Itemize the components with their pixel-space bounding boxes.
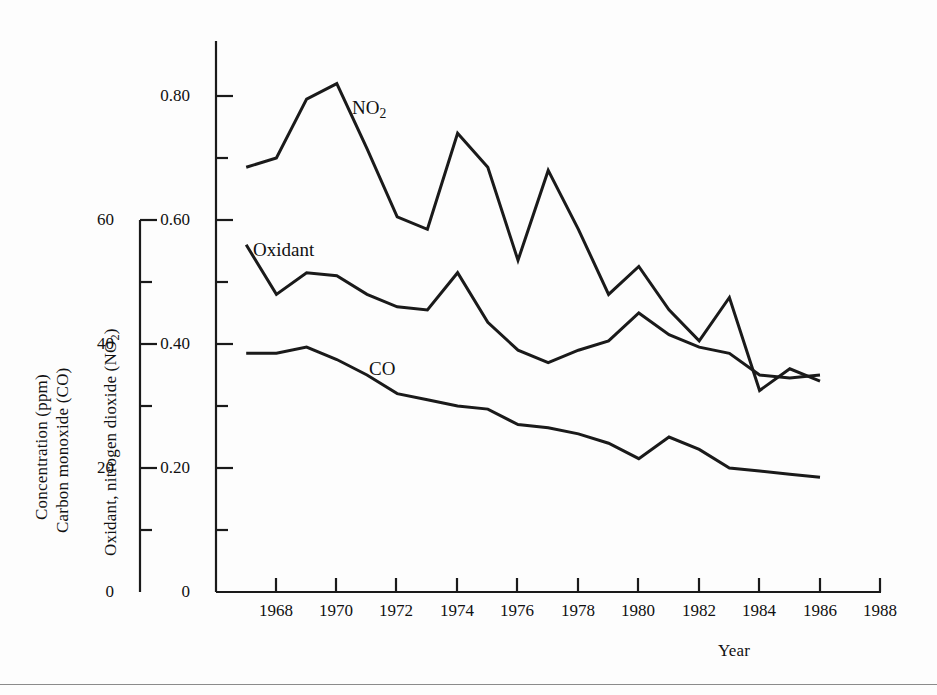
series-label-no2-text: NO: [352, 97, 379, 118]
x-tick-1988: 1988: [850, 601, 910, 621]
y-axis-co-ticks: [140, 220, 157, 530]
x-tick-1976: 1976: [487, 601, 547, 621]
series-label-no2-subscript: 2: [379, 106, 386, 121]
x-tick-1970: 1970: [306, 601, 366, 621]
chart-figure: 0.80 0.60 0.40 0.20 0 60 40 20 0 1968 19…: [0, 0, 937, 695]
y-axis-title-no2-subscript: 2: [108, 334, 122, 340]
footer-divider: [0, 684, 937, 685]
series-label-co: CO: [369, 358, 395, 380]
x-tick-1982: 1982: [669, 601, 729, 621]
x-tick-1980: 1980: [608, 601, 668, 621]
x-tick-1974: 1974: [427, 601, 487, 621]
y-axis-no2-ticks: [216, 96, 233, 530]
y-tick-no2-0.80: 0.80: [128, 86, 190, 106]
x-tick-1972: 1972: [366, 601, 426, 621]
y-axis-title-co-line1: Concentration (ppm): [32, 374, 52, 520]
y-tick-no2-0: 0: [128, 582, 190, 602]
x-axis-title: Year: [718, 641, 750, 661]
y-tick-co-0: 0: [52, 582, 114, 602]
y-axis-title-co-line2: Carbon monoxide (CO): [53, 368, 73, 533]
x-tick-1984: 1984: [729, 601, 789, 621]
x-tick-1968: 1968: [246, 601, 306, 621]
y-axis-title-no2-suffix: ): [101, 328, 120, 334]
x-tick-1986: 1986: [790, 601, 850, 621]
y-tick-no2-0.20: 0.20: [128, 458, 190, 478]
series-line-co: [246, 347, 820, 477]
x-axis-ticks: [276, 578, 880, 592]
series-label-oxidant: Oxidant: [253, 239, 314, 261]
y-tick-no2-0.60: 0.60: [128, 210, 190, 230]
y-tick-no2-0.40: 0.40: [128, 334, 190, 354]
series-line-no2: [246, 84, 820, 391]
y-axis-title-no2: Oxidant, nitrogen dioxide (NO2): [101, 328, 123, 556]
y-axis-title-no2-text: Oxidant, nitrogen dioxide (NO: [101, 341, 120, 556]
y-tick-co-60: 60: [52, 210, 114, 230]
x-tick-1978: 1978: [548, 601, 608, 621]
series-label-no2: NO2: [352, 97, 386, 122]
axis-group: [140, 41, 881, 592]
